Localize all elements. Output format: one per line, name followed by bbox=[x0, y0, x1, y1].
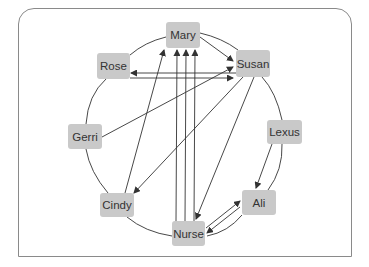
node-gerri: Gerri bbox=[68, 124, 102, 149]
edge-nurse-to-ali bbox=[206, 201, 240, 228]
node-label: Lexus bbox=[269, 126, 300, 138]
edge-mary-to-susan bbox=[200, 37, 233, 61]
edge-susan-to-cindy bbox=[134, 77, 243, 193]
node-label: Gerri bbox=[72, 131, 98, 143]
edge-nurse-to-mary bbox=[194, 50, 195, 221]
node-nurse: Nurse bbox=[172, 221, 205, 246]
node-lexus: Lexus bbox=[267, 120, 302, 144]
edge-lexus-to-ali bbox=[256, 144, 272, 188]
node-label: Mary bbox=[170, 29, 196, 41]
node-label: Ali bbox=[253, 197, 266, 209]
node-cindy: Cindy bbox=[100, 193, 134, 217]
node-susan: Susan bbox=[236, 50, 270, 77]
node-rose: Rose bbox=[97, 53, 130, 79]
node-label: Rose bbox=[100, 60, 127, 72]
node-mary: Mary bbox=[166, 22, 200, 48]
node-label: Susan bbox=[237, 58, 270, 70]
edge-ali-to-nurse bbox=[207, 207, 240, 233]
node-ali: Ali bbox=[242, 190, 276, 215]
edge-nurse-to-mary bbox=[176, 50, 177, 221]
node-label: Cindy bbox=[102, 199, 131, 211]
edge-nurse-to-mary bbox=[185, 50, 186, 221]
sociogram-diagram: MarySusanRoseGerriLexusCindyAliNurse bbox=[0, 0, 369, 267]
node-label: Nurse bbox=[173, 228, 204, 240]
